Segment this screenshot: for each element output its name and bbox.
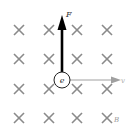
field-cross-icon: [14, 54, 24, 64]
field-cross-icon: [72, 113, 82, 123]
force-label: F: [65, 10, 72, 19]
field-cross-icon: [102, 25, 112, 35]
field-cross-icon: [44, 113, 54, 123]
field-cross-icon: [72, 84, 82, 94]
field-cross-icon: [14, 113, 24, 123]
field-cross-icon: [14, 84, 24, 94]
magnetic-force-diagram: e F v B: [0, 0, 131, 134]
field-cross-icon: [102, 84, 112, 94]
field-label: B: [113, 116, 119, 124]
field-cross-icon: [14, 25, 24, 35]
field-cross-icon: [72, 25, 82, 35]
field-cross-icon: [102, 113, 112, 123]
field-cross-icon: [44, 54, 54, 64]
field-cross-icon: [72, 54, 82, 64]
velocity-label: v: [121, 77, 125, 85]
electron-label: e: [60, 76, 65, 85]
field-cross-icon: [102, 54, 112, 64]
field-cross-icon: [44, 25, 54, 35]
field-cross-icon: [44, 84, 54, 94]
velocity-arrow-head: [111, 77, 121, 84]
